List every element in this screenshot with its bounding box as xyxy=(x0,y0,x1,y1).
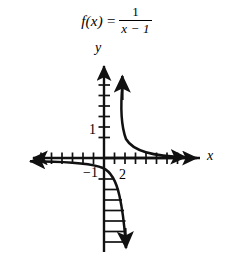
function-graph-figure: f(x)= 1 x − 1 y x 1 −1 2 xyxy=(0,0,233,266)
curve-right-branch xyxy=(121,76,186,157)
graph-canvas xyxy=(0,0,233,266)
right-branch-path-to-x-axis xyxy=(121,84,186,157)
left-branch-down-arrow xyxy=(125,228,126,248)
curve-left-branch xyxy=(30,161,126,248)
